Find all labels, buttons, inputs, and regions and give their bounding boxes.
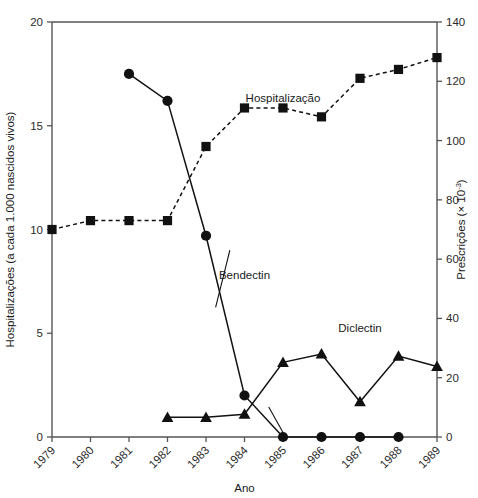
- y-tick-label: 15: [30, 120, 43, 132]
- marker-circle: [316, 432, 326, 442]
- y-tick-label: 0: [37, 431, 43, 443]
- y2-tick-label: 120: [446, 75, 465, 87]
- marker-square: [394, 65, 403, 74]
- y-axis-title: Hospitalizações (a cada 1.000 nascidos v…: [4, 111, 16, 347]
- marker-circle: [239, 390, 249, 400]
- chart-figure: 0510152002040608010012014019791980198119…: [0, 0, 478, 498]
- marker-square: [47, 225, 56, 234]
- y-tick-label: 20: [30, 16, 43, 28]
- y2-tick-label: 140: [446, 16, 465, 28]
- y2-tick-label: 40: [446, 312, 459, 324]
- marker-square: [317, 112, 326, 121]
- chart-canvas: 0510152002040608010012014019791980198119…: [0, 0, 478, 498]
- series-annotation-bendectin: Bendectin: [219, 269, 270, 281]
- marker-circle: [201, 231, 211, 241]
- marker-circle: [124, 69, 134, 79]
- marker-circle: [162, 96, 172, 106]
- y-tick-label: 5: [37, 327, 43, 339]
- y2-axis-title: Prescrições (× 10-3): [454, 179, 467, 279]
- marker-square: [86, 216, 95, 225]
- marker-square: [278, 103, 287, 112]
- x-axis-title: Ano: [234, 482, 254, 494]
- marker-square: [124, 216, 133, 225]
- marker-circle: [355, 432, 365, 442]
- y2-tick-label: 100: [446, 135, 465, 147]
- series-annotation-diclectin: Diclectin: [338, 322, 381, 334]
- marker-square: [163, 216, 172, 225]
- series-annotation-hospitaliza-o: Hospitalização: [246, 92, 321, 104]
- y2-tick-label: 20: [446, 372, 459, 384]
- marker-circle: [393, 432, 403, 442]
- marker-square: [240, 103, 249, 112]
- chart-background: [0, 0, 478, 498]
- marker-square: [432, 53, 441, 62]
- y-tick-label: 10: [30, 224, 43, 236]
- marker-square: [201, 142, 210, 151]
- marker-circle: [278, 432, 288, 442]
- marker-square: [355, 74, 364, 83]
- y2-tick-label: 0: [446, 431, 452, 443]
